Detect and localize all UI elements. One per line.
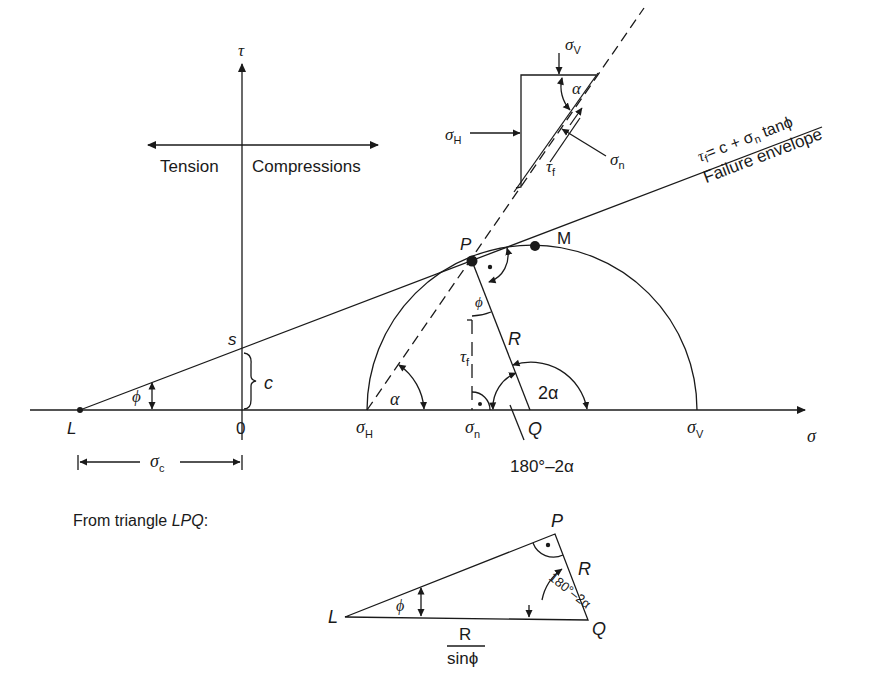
point-M — [530, 241, 540, 251]
label-Q: Q — [528, 420, 542, 438]
triangle-base-denominator: sinϕ — [447, 650, 478, 667]
angle-phi-P: ϕ — [475, 295, 483, 310]
label-M: M — [557, 230, 571, 247]
radius-R — [472, 261, 530, 410]
element-sigma-V: σV — [565, 36, 581, 56]
element-sigma-n: σn — [610, 151, 625, 171]
label-sigma-n: σn — [465, 418, 480, 440]
label-s: s — [228, 331, 237, 348]
element-tau-f: τf — [546, 158, 555, 178]
angle-supplement: 180°–2α — [510, 458, 574, 475]
origin-label: 0 — [236, 420, 245, 437]
tension-label: Tension — [160, 158, 219, 175]
label-P: P — [460, 236, 471, 253]
label-c: c — [264, 374, 273, 392]
failure-plane-dashed — [367, 8, 644, 410]
sigma-axis-label: σ — [807, 427, 816, 445]
point-P — [467, 256, 478, 267]
point-L — [77, 407, 83, 413]
label-sigma-H: σH — [356, 418, 373, 440]
tau-axis-label: τ — [238, 42, 244, 59]
label-L: L — [67, 420, 76, 437]
triangle-L: L — [328, 608, 338, 626]
element-alpha: α — [572, 80, 581, 97]
diagram-canvas: τf= c + σn tanϕ Failure envelope 180°–2α — [0, 0, 879, 699]
triangle-caption: From triangle LPQ: — [73, 513, 208, 529]
label-tau-f: τf — [460, 348, 469, 368]
triangle-R: R — [578, 560, 591, 578]
angle-2alpha: 2α — [538, 384, 558, 402]
triangle-Q: Q — [592, 620, 606, 638]
triangle-base-numerator: R — [459, 626, 471, 643]
compressions-label: Compressions — [252, 158, 361, 175]
label-R: R — [508, 330, 521, 348]
triangle-P: P — [551, 512, 563, 530]
label-sigma-V: σV — [687, 418, 703, 440]
angle-alpha: α — [390, 390, 399, 408]
label-sigma-c: σc — [150, 452, 164, 474]
element-sigma-H: σH — [445, 126, 461, 146]
angle-phi-L: ϕ — [132, 388, 141, 405]
triangle-phi: ϕ — [396, 598, 404, 614]
